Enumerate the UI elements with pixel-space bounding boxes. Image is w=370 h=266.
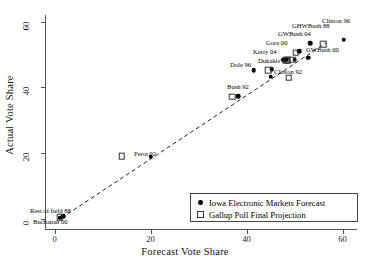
y-tick-label: 40	[14, 80, 38, 98]
iem-data-point	[252, 68, 257, 73]
point-label: Dukakis 88	[258, 58, 288, 65]
point-label: Dole 96	[230, 62, 251, 69]
y-axis-title-holder: Actual Vote Share	[0, 0, 18, 229]
point-label: Gore 00	[266, 40, 287, 47]
x-tick-label: 20	[146, 234, 155, 244]
y-tick-label: 20	[14, 146, 38, 164]
x-tick-label: 0	[52, 234, 56, 244]
open-square-icon	[195, 211, 206, 218]
point-label: Perot 92	[134, 151, 156, 158]
x-tick-label: 60	[338, 234, 347, 244]
scatter-chart: Actual Vote Share 02040600204060 Rest of…	[0, 0, 370, 266]
iem-data-point	[308, 41, 313, 46]
point-label: Clinton 96	[322, 18, 350, 25]
gallup-data-point	[289, 56, 296, 63]
point-label: Bush 92	[227, 84, 249, 91]
iem-data-point	[236, 94, 241, 99]
chart-legend: Iowa Electronic Markets Forecast Gallup …	[190, 193, 358, 222]
legend-entry-gallup: Gallup Poll Final Projection	[195, 209, 353, 221]
point-label: Kerry 04	[253, 49, 277, 56]
point-label: Buchanan 00	[33, 219, 68, 226]
point-label: Clinton 92	[274, 69, 302, 76]
gallup-data-point	[119, 153, 126, 160]
point-label: GWBush 04	[278, 31, 311, 38]
iem-data-point	[341, 37, 346, 42]
legend-entry-iem: Iowa Electronic Markets Forecast	[195, 197, 353, 209]
filled-circle-icon	[195, 200, 206, 205]
iem-data-point	[306, 56, 311, 61]
iem-data-point	[268, 75, 273, 80]
point-label: Rest of field 88	[30, 208, 71, 215]
point-label: GWBush 00	[306, 47, 339, 54]
y-axis-title: Actual Vote Share	[4, 55, 15, 175]
legend-label-gallup: Gallup Poll Final Projection	[209, 210, 306, 220]
y-tick-label: 60	[14, 15, 38, 33]
x-tick-label: 40	[242, 234, 251, 244]
gallup-data-point	[229, 93, 236, 100]
legend-label-iem: Iowa Electronic Markets Forecast	[209, 198, 325, 208]
gallup-data-point	[292, 49, 299, 56]
x-axis-title: Forecast Vote Share	[0, 246, 370, 257]
gallup-data-point	[265, 67, 272, 74]
x-axis-line	[45, 229, 357, 230]
